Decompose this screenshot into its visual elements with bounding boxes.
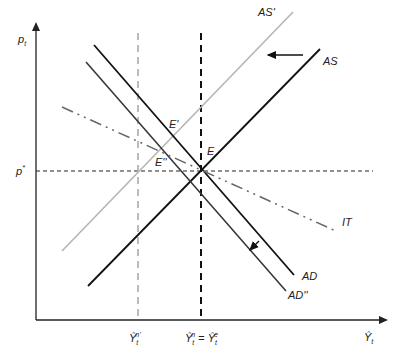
- point-e-prime-label: E': [169, 119, 178, 130]
- y-natural-sub: t: [192, 339, 194, 346]
- p-star-label: p*: [16, 164, 25, 177]
- y-axis-label: pt: [18, 34, 26, 47]
- y-expected-sub: t: [215, 339, 217, 346]
- as-label: AS: [323, 56, 338, 67]
- x-axis-label: Ŷt: [364, 332, 373, 345]
- y-axis-arrow-icon: [32, 22, 40, 31]
- y-natural-sup: n: [191, 331, 195, 338]
- x-axis-arrow-icon: [379, 316, 388, 324]
- equals-sign: =: [198, 332, 204, 344]
- y-n-prime-sup: n': [135, 331, 140, 338]
- point-e-double-prime-label: E'': [155, 157, 167, 168]
- ad-curve: [94, 45, 294, 275]
- ad-label: AD: [302, 271, 317, 282]
- y-n-prime-label: Ŷtn': [129, 331, 141, 346]
- ad-shift-arrow-icon: [250, 241, 259, 250]
- diagram-canvas: [0, 0, 395, 358]
- p-star-sup: *: [22, 164, 25, 171]
- point-e-label: E: [207, 146, 214, 157]
- x-axis-label-sub: t: [371, 338, 373, 345]
- y-axis-label-sub: t: [24, 40, 26, 47]
- it-label: IT: [342, 217, 352, 228]
- as-prime-label: AS': [258, 7, 275, 18]
- ad-double-prime-label: AD'': [288, 290, 307, 301]
- y-expected-sup: e: [214, 331, 218, 338]
- y-n-prime-sub: t: [136, 339, 138, 346]
- y-natural-equals-expected-label: Ŷtn = Ŷte: [185, 331, 218, 346]
- as-curve: [88, 49, 320, 286]
